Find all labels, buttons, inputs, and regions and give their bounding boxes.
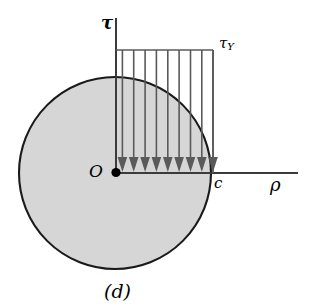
origin-label: O (89, 163, 103, 180)
tau-axis-label: τ (101, 14, 113, 32)
origin-dot (111, 168, 120, 177)
yield-stress-label: τY (219, 36, 234, 52)
figure-container: τ τY ρ O c (d) (0, 0, 316, 308)
radius-label: c (214, 176, 222, 191)
figure-caption: (d) (104, 282, 131, 301)
yield-stress-label-subscript: Y (227, 41, 234, 52)
stress-distribution-diagram (0, 0, 316, 308)
rho-axis-label: ρ (270, 176, 281, 194)
